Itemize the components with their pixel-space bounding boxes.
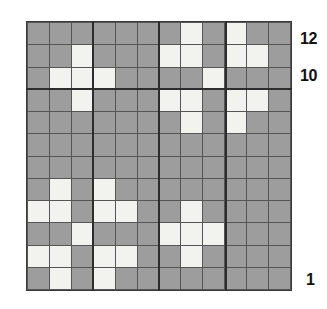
grid-cell	[159, 45, 180, 66]
grid-cell	[138, 246, 159, 267]
grid-cell	[181, 90, 202, 111]
grid-cell	[203, 112, 224, 133]
grid-cell	[203, 201, 224, 222]
grid-cell	[225, 268, 246, 289]
grid-cell	[181, 68, 202, 89]
grid-cell	[159, 201, 180, 222]
grid-cell	[50, 201, 71, 222]
grid-cell	[247, 45, 268, 66]
grid-cell	[203, 68, 224, 89]
grid-cell	[138, 201, 159, 222]
grid-cell	[269, 45, 290, 66]
grid-cell	[94, 112, 115, 133]
grid-cell	[50, 68, 71, 89]
grid-cell	[247, 157, 268, 178]
grid-cell	[269, 223, 290, 244]
grid-cell	[72, 179, 93, 200]
grid-cell	[269, 268, 290, 289]
grid-cell	[203, 179, 224, 200]
grid-cell	[203, 90, 224, 111]
grid-cell	[225, 90, 246, 111]
grid-cell	[50, 268, 71, 289]
grid-cell	[72, 268, 93, 289]
grid-cell	[28, 90, 49, 111]
grid-cell	[159, 134, 180, 155]
grid-cell	[116, 201, 137, 222]
grid-cell	[247, 68, 268, 89]
grid-cell	[50, 246, 71, 267]
grid-cell	[269, 23, 290, 44]
grid-cell	[116, 23, 137, 44]
axis-label-10: 10	[300, 68, 317, 84]
grid-cell	[159, 90, 180, 111]
grid-cell	[72, 45, 93, 66]
grid-cell	[116, 246, 137, 267]
grid-cell	[269, 68, 290, 89]
grid-cell	[203, 246, 224, 267]
grid-cell	[94, 23, 115, 44]
grid-cell	[247, 112, 268, 133]
grid-cell	[72, 157, 93, 178]
grid-cell	[181, 23, 202, 44]
grid-cell	[247, 134, 268, 155]
grid-cell	[247, 268, 268, 289]
grid-cell	[28, 157, 49, 178]
grid-cell	[159, 246, 180, 267]
grid-cell	[225, 201, 246, 222]
grid-cell	[94, 246, 115, 267]
grid-cell	[203, 223, 224, 244]
grid-cell	[203, 134, 224, 155]
grid-cell	[94, 134, 115, 155]
grid-cell	[116, 112, 137, 133]
grid-cell	[28, 68, 49, 89]
grid-cell	[72, 90, 93, 111]
grid-cell	[203, 45, 224, 66]
grid-cell	[94, 45, 115, 66]
cell-grid	[26, 21, 292, 291]
grid-cell	[94, 157, 115, 178]
grid-cell	[28, 23, 49, 44]
grid-cell	[203, 23, 224, 44]
grid-cell	[181, 45, 202, 66]
grid-cell	[247, 223, 268, 244]
grid-cell	[181, 223, 202, 244]
grid-cell	[138, 179, 159, 200]
grid-cell	[94, 268, 115, 289]
grid-cell	[225, 68, 246, 89]
grid-cell	[50, 112, 71, 133]
grid-cell	[116, 268, 137, 289]
grid-cell	[269, 90, 290, 111]
grid-cell	[28, 201, 49, 222]
grid-cell	[181, 246, 202, 267]
grid-cell	[50, 23, 71, 44]
grid-cell	[116, 157, 137, 178]
grid-cell	[269, 179, 290, 200]
grid-cell	[50, 223, 71, 244]
grid-cell	[159, 68, 180, 89]
grid-cell	[159, 223, 180, 244]
grid-cell	[247, 246, 268, 267]
grid-cell	[50, 90, 71, 111]
grid-cell	[72, 23, 93, 44]
grid-cell	[159, 268, 180, 289]
grid-cell	[247, 90, 268, 111]
grid-cell	[269, 246, 290, 267]
grid-cell	[72, 134, 93, 155]
grid-cell	[138, 268, 159, 289]
axis-label-1: 1	[306, 272, 314, 288]
grid-cell	[203, 268, 224, 289]
grid-cell	[225, 179, 246, 200]
grid-cell	[28, 246, 49, 267]
grid-cell	[116, 223, 137, 244]
grid-cell	[116, 134, 137, 155]
grid-cell	[247, 201, 268, 222]
grid-cell	[159, 157, 180, 178]
grid-cell	[50, 134, 71, 155]
grid-cell	[72, 112, 93, 133]
grid-cell	[138, 23, 159, 44]
grid-cell	[225, 112, 246, 133]
grid-cell	[138, 157, 159, 178]
grid-cell	[225, 157, 246, 178]
grid-cell	[138, 223, 159, 244]
grid-cell	[72, 246, 93, 267]
